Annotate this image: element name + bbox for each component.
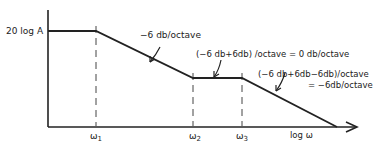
flat-annotation: (−6 db+6db) /octave = 0 db/octave [196,49,349,59]
tick-subscript: 2 [197,135,201,143]
tick-subscript: 1 [98,135,102,143]
y-axis-label: 20 log A [6,26,43,36]
slope1-annotation: −6 db/octave [140,30,201,40]
tick-omega3: ω3 [236,131,248,144]
tick-symbol: ω [236,131,244,141]
tick-subscript: 3 [244,135,248,143]
x-axis-label: log ω [290,130,313,140]
bode-diagram: 20 log A −6 db/octave (−6 db+6db) /octav… [0,0,378,147]
tick-omega2: ω2 [189,131,201,144]
slope2-annotation-line2: = −6db/octave [308,80,373,90]
slope2-annotation-line1: (−6 db+6db−6db)/octave [258,69,369,79]
tick-omega1: ω1 [90,131,102,144]
tick-symbol: ω [189,131,197,141]
tick-symbol: ω [90,131,98,141]
